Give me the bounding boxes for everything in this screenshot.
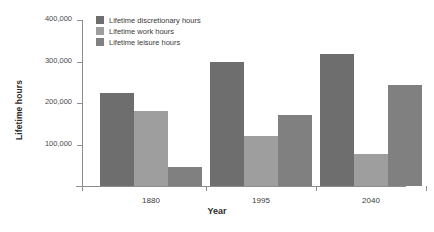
bar bbox=[244, 136, 278, 186]
legend-item-label: Lifetime leisure hours bbox=[109, 38, 180, 47]
x-axis-tick bbox=[206, 186, 207, 191]
y-axis-title-text: Lifetime hours bbox=[14, 80, 24, 140]
legend-swatch-icon bbox=[96, 16, 104, 24]
x-axis-tick bbox=[82, 186, 83, 191]
x-axis-title: Year bbox=[0, 206, 434, 216]
bar bbox=[388, 85, 422, 186]
bar bbox=[134, 111, 168, 186]
legend-item: Lifetime work hours bbox=[96, 26, 201, 36]
bar bbox=[100, 93, 134, 186]
legend-item-label: Lifetime work hours bbox=[109, 27, 174, 36]
y-axis-tick: 100,000 bbox=[77, 145, 82, 146]
x-axis-tick bbox=[316, 186, 317, 191]
legend: Lifetime discretionary hoursLifetime wor… bbox=[96, 15, 201, 48]
y-axis-tick: 300,000 bbox=[77, 62, 82, 63]
legend-swatch-icon bbox=[96, 38, 104, 46]
bar bbox=[278, 115, 312, 186]
legend-item: Lifetime leisure hours bbox=[96, 37, 201, 47]
legend-item: Lifetime discretionary hours bbox=[96, 15, 201, 25]
bar bbox=[354, 154, 388, 186]
y-axis-tick-label: 300,000 bbox=[45, 56, 72, 65]
x-axis-tick-label: 1880 bbox=[142, 196, 160, 205]
y-axis-tick-label: 200,000 bbox=[45, 97, 72, 106]
bar bbox=[210, 62, 244, 186]
legend-swatch-icon bbox=[96, 27, 104, 35]
x-axis-title-text: Year bbox=[207, 206, 226, 216]
bar bbox=[168, 167, 202, 186]
y-axis-tick-label: 100,000 bbox=[45, 139, 72, 148]
x-axis-tick bbox=[426, 186, 427, 191]
y-axis-tick: 400,000 bbox=[77, 20, 82, 21]
y-axis-tick-label: 400,000 bbox=[45, 14, 72, 23]
x-axis-tick-label: 2040 bbox=[362, 196, 380, 205]
y-axis-line bbox=[82, 20, 83, 186]
x-axis-tick-label: 1995 bbox=[252, 196, 270, 205]
bar bbox=[320, 54, 354, 186]
legend-item-label: Lifetime discretionary hours bbox=[109, 16, 201, 25]
x-axis-line bbox=[76, 186, 406, 187]
y-axis-tick: 200,000 bbox=[77, 103, 82, 104]
bar-chart: Lifetime hours 100,000200,000300,000400,… bbox=[0, 0, 434, 232]
y-axis-title: Lifetime hours bbox=[10, 60, 28, 160]
